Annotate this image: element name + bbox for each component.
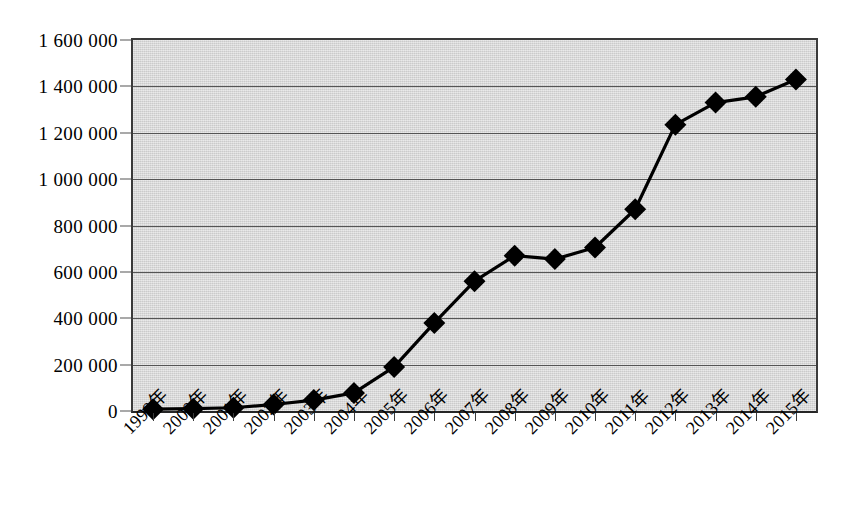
plot-area — [131, 38, 818, 413]
y-axis-tick-label: 1 400 000 — [38, 77, 118, 96]
y-axis-tick-label: 600 000 — [53, 262, 118, 281]
data-point-marker — [664, 114, 686, 136]
y-axis-labels: 0200 000400 000600 000800 0001 000 0001 … — [0, 0, 118, 508]
chart-figure: 0200 000400 000600 000800 0001 000 0001 … — [0, 0, 844, 508]
y-axis-tick-label: 200 000 — [53, 355, 118, 374]
line-series-svg — [133, 40, 816, 411]
y-axis-tick-mark — [120, 318, 131, 319]
y-axis-tick-mark — [120, 225, 131, 226]
series-markers — [142, 68, 807, 420]
y-axis-tick-mark — [120, 271, 131, 272]
y-axis-tick-mark — [120, 132, 131, 133]
y-axis-tick-label: 800 000 — [53, 216, 118, 235]
y-axis-tick-label: 1 200 000 — [38, 123, 118, 142]
data-point-marker — [705, 92, 727, 114]
y-axis-tick-label: 1 000 000 — [38, 170, 118, 189]
y-axis-tick-mark — [120, 86, 131, 87]
y-axis-tick-mark — [120, 40, 131, 41]
y-axis-tick-label: 1 600 000 — [38, 31, 118, 50]
y-axis-tick-mark — [120, 411, 131, 412]
y-axis-tick-mark — [120, 364, 131, 365]
series-line — [153, 79, 796, 409]
y-axis-tick-label: 400 000 — [53, 309, 118, 328]
data-point-marker — [544, 248, 566, 270]
data-point-marker — [504, 245, 526, 267]
data-point-marker — [745, 86, 767, 108]
y-axis-tick-mark — [120, 179, 131, 180]
y-axis-tick-label: 0 — [108, 402, 118, 421]
data-point-marker — [785, 68, 807, 90]
